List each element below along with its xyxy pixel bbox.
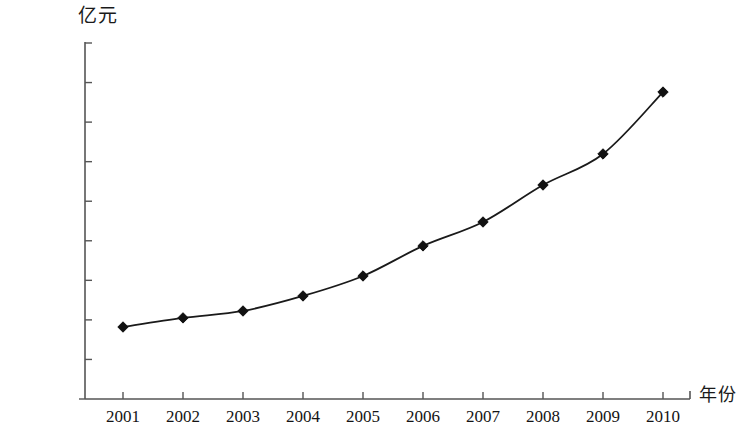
- data-series-line: [123, 92, 663, 327]
- data-point-markers: [118, 87, 668, 332]
- data-point-marker: [418, 241, 428, 251]
- data-point-marker: [538, 180, 548, 190]
- data-point-marker: [298, 291, 308, 301]
- chart-axes: [79, 42, 690, 399]
- data-point-marker: [118, 322, 128, 332]
- data-point-marker: [178, 313, 188, 323]
- data-point-marker: [478, 217, 488, 227]
- data-point-marker: [238, 306, 248, 316]
- chart-container: 亿元 年份 020 00040 00060 00080 000100 00012…: [0, 0, 740, 431]
- data-point-marker: [358, 271, 368, 281]
- line-chart-plot: [0, 0, 740, 431]
